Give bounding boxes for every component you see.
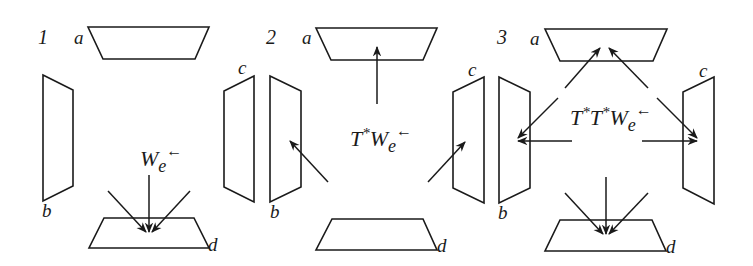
region-label-d: d [208,234,218,255]
region-label-c: c [238,57,247,78]
arrow-to-b [290,141,328,182]
region-label-a: a [74,27,84,48]
formula: T*We← [350,122,412,156]
region-label-a: a [302,27,312,48]
region-c-trapezoid [453,77,484,203]
region-label-c: c [468,59,477,80]
panel-3: 3 a b c d T*T*We← [496,26,714,257]
region-b-trapezoid [499,77,530,203]
panel-number: 1 [38,26,48,48]
region-label-d: d [666,236,676,257]
arrow-down-right [108,191,146,232]
region-d-trapezoid [316,219,437,250]
arrow-to-d-left [565,193,603,234]
region-label-b: b [498,202,508,223]
region-c-trapezoid [224,76,254,202]
arrow-to-c-diagonal [657,98,697,138]
region-a-trapezoid [88,27,209,59]
region-label-d: d [437,235,447,256]
arrow-to-b-diagonal [518,98,558,138]
region-label-b: b [270,201,280,222]
arrow-to-a-left [565,48,600,88]
region-label-a: a [530,28,540,49]
formula: T*T*We← [570,101,652,135]
panel-2: 2 a b c d T*We← [266,26,484,256]
region-a-trapezoid [545,29,667,61]
diagram-svg: 1 a b c d We← 2 a b c d T*We← [0,0,753,266]
arrow-to-d-right [609,193,648,234]
region-label-c: c [699,60,708,81]
region-label-b: b [42,200,52,221]
diagram-canvas: 1 a b c d We← 2 a b c d T*We← [0,0,753,266]
region-b-trapezoid [43,75,73,201]
region-b-trapezoid [270,76,301,202]
arrow-down-left [152,191,190,232]
arrow-to-c [428,142,465,182]
panel-number: 2 [266,26,276,48]
panel-1: 1 a b c d We← [38,26,254,255]
arrow-to-a-right [609,48,648,88]
panel-number: 3 [496,26,507,48]
formula: We← [140,142,182,176]
